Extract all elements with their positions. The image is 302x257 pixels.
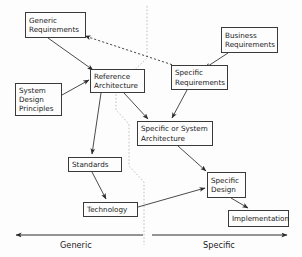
node-business-requirements[interactable]: Business Requirements: [221, 27, 278, 53]
node-standards[interactable]: Standards: [68, 157, 122, 172]
diagram-canvas: Generic Requirements Business Requiremen…: [0, 0, 302, 257]
edge-reference-architecture-to-standards: [92, 93, 101, 154]
edge-specific-requirements-to-generic-requirements: [85, 36, 176, 66]
axis-label-generic: Generic: [60, 240, 92, 250]
edge-specific-requirements-to-specific-or-system-architecture: [172, 90, 187, 118]
node-system-design-principles[interactable]: System Design Principles: [15, 83, 62, 116]
axis-label-specific: Specific: [203, 240, 235, 250]
node-specific-design[interactable]: Specific Design: [207, 172, 246, 198]
edge-reference-architecture-to-specific-or-system-architecture: [124, 93, 148, 119]
node-technology[interactable]: Technology: [83, 202, 138, 217]
edge-technology-to-specific-design: [138, 188, 205, 207]
edge-system-design-principles-to-reference-architecture: [62, 80, 89, 95]
node-specific-requirements[interactable]: Specific Requirements: [171, 65, 228, 90]
node-reference-architecture[interactable]: Reference Architecture: [90, 69, 145, 93]
edge-generic-requirements-to-reference-architecture: [48, 38, 93, 70]
node-generic-requirements[interactable]: Generic Requirements: [25, 12, 86, 38]
edge-specific-or-system-architecture-to-specific-design: [178, 146, 206, 171]
edge-standards-to-technology: [92, 172, 106, 199]
node-specific-or-system-architecture[interactable]: Specific or System Architecture: [137, 121, 213, 146]
edge-specific-design-to-implementation: [231, 198, 248, 208]
node-implementation[interactable]: Implementation: [228, 210, 289, 227]
